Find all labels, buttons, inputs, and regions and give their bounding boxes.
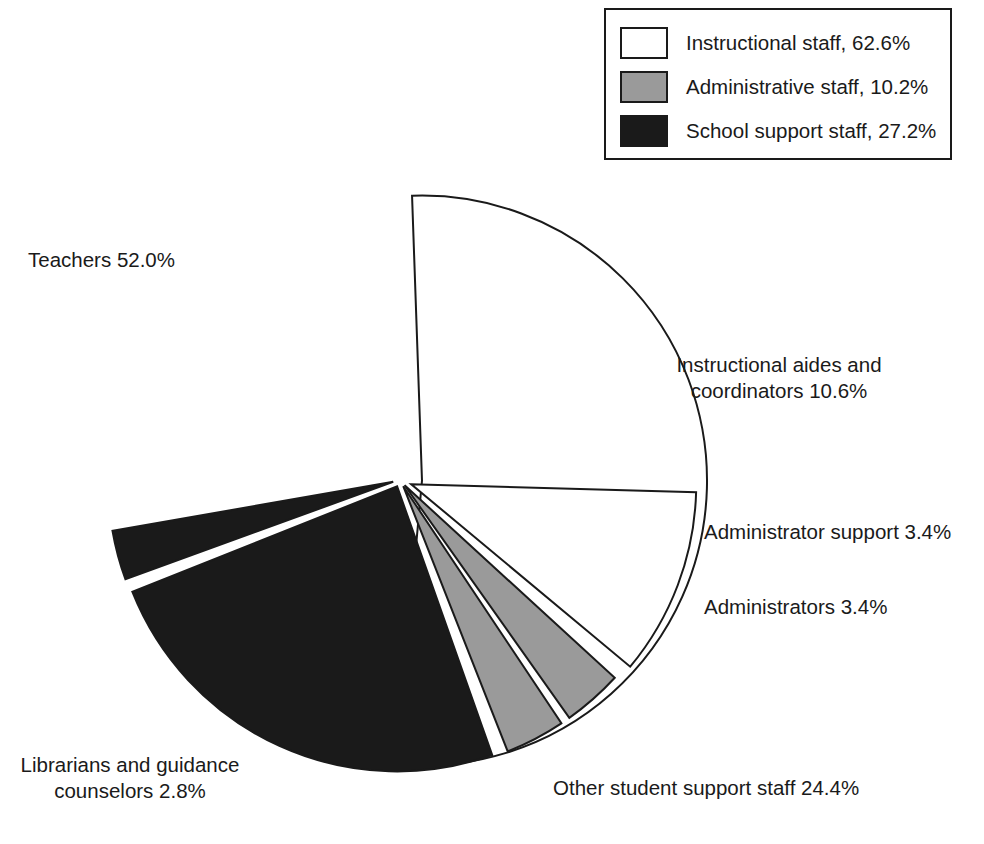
slice-label-administrator-support: Administrator support 3.4% [704,519,976,545]
slice-label-instructional-aides: Instructional aides and coordinators 10.… [663,352,895,404]
legend-item[interactable]: Instructional staff, 62.6% [620,22,940,64]
slice-label-librarians-guidance-counselors: Librarians and guidance counselors 2.8% [6,752,254,804]
legend-swatch-white [620,27,668,59]
slice-label-teachers: Teachers 52.0% [28,247,258,273]
legend-item[interactable]: School support staff, 27.2% [620,110,940,152]
pie-chart-figure: Instructional staff, 62.6%Administrative… [0,0,984,844]
legend: Instructional staff, 62.6%Administrative… [604,8,952,160]
legend-item-label: Instructional staff, 62.6% [686,31,910,55]
legend-item[interactable]: Administrative staff, 10.2% [620,66,940,108]
legend-item-label: Administrative staff, 10.2% [686,75,928,99]
slice-label-other-student-support-staff: Other student support staff 24.4% [553,775,893,801]
legend-swatch-gray [620,71,668,103]
legend-list: Instructional staff, 62.6%Administrative… [620,22,940,154]
legend-swatch-black [620,115,668,147]
legend-item-label: School support staff, 27.2% [686,119,936,143]
slice-label-administrators: Administrators 3.4% [704,594,954,620]
